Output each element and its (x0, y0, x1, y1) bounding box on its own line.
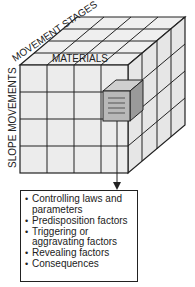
info-item-revealing: Revealing factors (25, 248, 135, 259)
info-item-controlling-laws: Controlling laws and parameters (25, 194, 135, 215)
info-item-predisposition: Predisposition factors (25, 216, 135, 227)
info-box: Controlling laws and parameters Predispo… (20, 190, 138, 282)
info-item-triggering: Triggering or aggravating factors (25, 227, 135, 248)
axis-label-slope-movements: SLOPE MOVEMENTS (7, 67, 18, 168)
axis-label-materials: MATERIALS (52, 53, 108, 64)
highlighted-cell-block (103, 80, 143, 121)
info-item-consequences: Consequences (25, 259, 135, 270)
info-list: Controlling laws and parameters Predispo… (25, 194, 135, 270)
